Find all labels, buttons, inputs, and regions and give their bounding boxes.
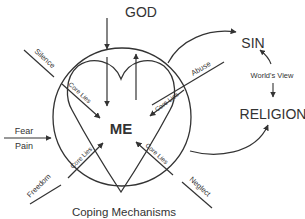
label-fear: Fear [15, 126, 34, 136]
sin-arrow [168, 31, 236, 63]
worlds-view-up-arrow [260, 50, 271, 64]
label-coping-mechanisms: Coping Mechanisms [72, 206, 176, 218]
label-pain: Pain [15, 141, 33, 151]
diagram-canvas: GOD ME Coping Mechanisms SIN World's Vie… [0, 0, 305, 219]
label-sin: SIN [241, 35, 264, 51]
label-freedom: Freedom [25, 172, 53, 200]
label-worlds-view: World's View [251, 71, 294, 80]
label-silence: Silence [33, 47, 57, 70]
label-religion: RELIGION [240, 106, 305, 122]
label-god: GOD [125, 4, 157, 20]
label-core-lies-ll: Core Lies [69, 145, 94, 170]
label-neglect: Neglect [188, 175, 214, 199]
label-me: ME [110, 120, 133, 137]
label-abuse: Abuse [189, 59, 212, 78]
religion-arrow [190, 125, 268, 154]
